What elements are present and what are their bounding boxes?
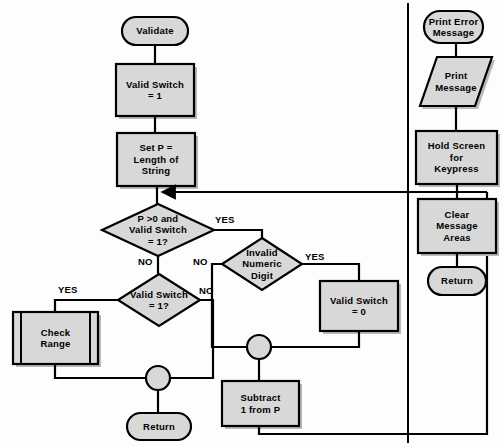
node-subtract-1-from-p[interactable] — [222, 381, 302, 429]
node-clear-message-areas[interactable] — [418, 199, 499, 256]
edge-invalid-yes-to-valid-switch-0 — [302, 264, 359, 281]
edge-decision-p-yes-to-invalid — [214, 230, 262, 238]
node-valid-switch-0[interactable] — [320, 281, 401, 334]
node-return-left[interactable] — [127, 413, 191, 440]
node-valid-switch-1[interactable] — [116, 64, 197, 119]
node-connector-b[interactable] — [146, 366, 170, 390]
flowchart-vector-layer — [0, 0, 503, 446]
node-decision-invalid-numeric-digit[interactable] — [222, 238, 302, 290]
node-return-right[interactable] — [428, 267, 486, 295]
node-print-message[interactable] — [420, 57, 495, 109]
node-hold-screen-for-keypress[interactable] — [416, 131, 500, 187]
node-set-p[interactable] — [117, 133, 198, 189]
node-print-error-message[interactable] — [424, 11, 483, 43]
node-validate[interactable] — [122, 17, 188, 45]
node-decision-p-gt-0[interactable] — [102, 204, 214, 256]
node-decision-valid-switch-1[interactable] — [118, 274, 200, 326]
node-connector-a[interactable] — [247, 335, 271, 359]
edge-valid-switch-yes-to-check-range — [55, 300, 118, 312]
flowchart-canvas: Validate Valid Switch = 1 Set P = Length… — [0, 0, 503, 446]
node-check-range[interactable] — [13, 312, 101, 367]
